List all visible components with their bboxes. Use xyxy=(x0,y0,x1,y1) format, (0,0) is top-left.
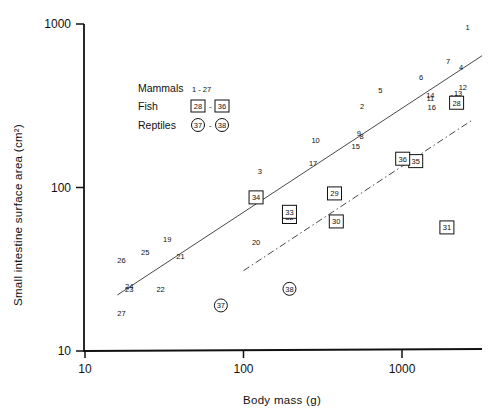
data-point-35: 35 xyxy=(409,155,423,168)
point-label: 33 xyxy=(285,208,293,217)
x-tick-label: 100 xyxy=(233,362,253,376)
data-point-33: 33 xyxy=(282,205,296,218)
data-point-38: 38 xyxy=(283,282,296,295)
data-point-17: 17 xyxy=(309,159,317,168)
legend-dash: - xyxy=(209,102,212,111)
x-tick-label: 10 xyxy=(78,362,92,376)
legend-dash: - xyxy=(209,121,212,130)
data-point-3: 3 xyxy=(258,167,262,176)
y-tick-label: 100 xyxy=(51,181,71,195)
legend-entry-mammals: Mammals1 - 27 xyxy=(138,82,211,94)
legend-marker-label: 28 xyxy=(194,102,202,111)
data-point-27: 27 xyxy=(117,309,125,318)
legend-label: Fish xyxy=(138,100,158,112)
scatter-chart: 101001000 101001000 Body mass (g) Small … xyxy=(0,0,493,416)
data-point-30: 30 xyxy=(329,215,343,228)
legend-entry-fish: Fish28-36 xyxy=(138,100,229,112)
data-point-22: 22 xyxy=(156,285,164,294)
point-label: 3 xyxy=(258,167,262,176)
legend: Mammals1 - 27Fish28-36Reptiles37-38 xyxy=(138,82,229,132)
data-point-28: 28 xyxy=(450,96,464,109)
data-point-7: 7 xyxy=(446,57,450,66)
point-label: 9 xyxy=(357,129,361,138)
data-point-31: 31 xyxy=(440,221,454,234)
point-label: 36 xyxy=(399,155,407,164)
point-label: 38 xyxy=(285,285,293,294)
data-point-2: 2 xyxy=(360,102,364,111)
point-label: 5 xyxy=(378,86,382,95)
point-label: 27 xyxy=(117,309,125,318)
data-point-37: 37 xyxy=(214,299,227,312)
data-point-21: 21 xyxy=(176,252,184,261)
point-label: 6 xyxy=(419,73,423,82)
point-label: 35 xyxy=(412,157,420,166)
point-label: 31 xyxy=(443,223,451,232)
point-label: 25 xyxy=(141,248,149,257)
point-label: 22 xyxy=(156,285,164,294)
point-label: 2 xyxy=(360,102,364,111)
data-point-15: 15 xyxy=(351,142,359,151)
data-point-6: 6 xyxy=(419,73,423,82)
data-point-34: 34 xyxy=(249,191,263,204)
y-ticks: 101001000 xyxy=(44,17,84,358)
legend-range: 1 - 27 xyxy=(192,85,211,94)
data-point-24: 24 xyxy=(125,282,133,291)
data-point-19: 19 xyxy=(163,235,171,244)
legend-label: Mammals xyxy=(138,82,184,94)
x-axis-title: Body mass (g) xyxy=(243,394,321,406)
data-point-5: 5 xyxy=(378,86,382,95)
data-points: 1234567891011121314151617181920212223242… xyxy=(117,23,469,318)
point-label: 21 xyxy=(176,252,184,261)
point-label: 15 xyxy=(351,142,359,151)
point-label: 24 xyxy=(125,282,133,291)
data-point-14: 14 xyxy=(426,91,434,100)
legend-marker-label: 38 xyxy=(218,121,226,130)
data-point-29: 29 xyxy=(327,187,341,200)
point-label: 34 xyxy=(252,193,260,202)
data-point-20: 20 xyxy=(252,238,260,247)
point-label: 26 xyxy=(117,256,125,265)
x-tick-label: 1000 xyxy=(389,362,416,376)
point-label: 30 xyxy=(332,217,340,226)
data-point-25: 25 xyxy=(141,248,149,257)
point-label: 10 xyxy=(311,136,319,145)
point-label: 7 xyxy=(446,57,450,66)
y-tick-label: 1000 xyxy=(44,17,71,31)
x-ticks: 101001000 xyxy=(78,350,415,376)
point-label: 28 xyxy=(452,99,460,108)
point-label: 14 xyxy=(426,91,434,100)
data-point-1: 1 xyxy=(465,23,469,32)
point-label: 19 xyxy=(163,235,171,244)
legend-marker-label: 37 xyxy=(194,121,202,130)
legend-label: Reptiles xyxy=(138,119,176,131)
point-label: 20 xyxy=(252,238,260,247)
data-point-9: 9 xyxy=(357,129,361,138)
point-label: 29 xyxy=(330,189,338,198)
data-point-4: 4 xyxy=(459,63,463,72)
data-point-10: 10 xyxy=(311,136,319,145)
data-point-26: 26 xyxy=(117,256,125,265)
legend-entry-reptiles: Reptiles37-38 xyxy=(138,119,229,132)
y-tick-label: 10 xyxy=(58,344,72,358)
y-axis-title: Small intestine surface area (cm²) xyxy=(12,124,24,306)
data-point-16: 16 xyxy=(428,103,436,112)
point-label: 16 xyxy=(428,103,436,112)
point-label: 17 xyxy=(309,159,317,168)
axes: 101001000 101001000 Body mass (g) Small … xyxy=(12,17,482,406)
point-label: 1 xyxy=(465,23,469,32)
legend-marker-label: 36 xyxy=(218,102,226,111)
data-point-36: 36 xyxy=(396,152,410,165)
point-label: 37 xyxy=(217,301,225,310)
point-label: 4 xyxy=(459,63,463,72)
x-axis-line xyxy=(84,349,482,351)
